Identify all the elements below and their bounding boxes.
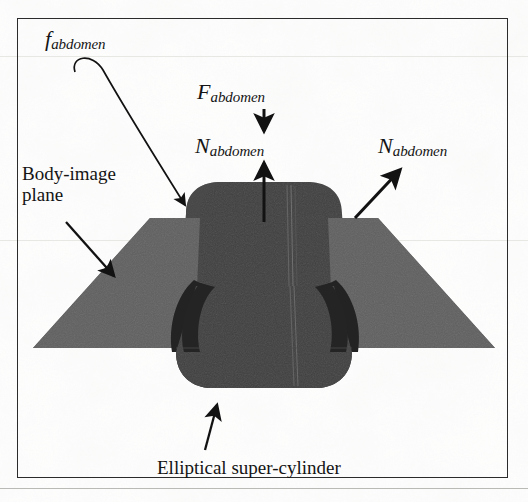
force-symbol: F — [197, 79, 211, 104]
normal-right-subscript: abdomen — [393, 143, 447, 159]
label-body-image-plane: Body-image plane — [22, 163, 116, 206]
label-force-abdomen: Fabdomen — [197, 80, 265, 105]
label-elliptical-super-cylinder: Elliptical super-cylinder — [157, 457, 341, 478]
label-normal-abdomen-top: Nabdomen — [195, 134, 264, 159]
friction-subscript: abdomen — [51, 36, 105, 52]
normal-right-symbol: N — [378, 133, 393, 158]
force-subscript: abdomen — [211, 89, 265, 105]
scanned-page: fabdomen Fabdomen Nabdomen Nabdomen Body… — [0, 0, 528, 502]
label-friction-abdomen: fabdomen — [45, 27, 106, 52]
label-normal-abdomen-right: Nabdomen — [378, 134, 447, 159]
body-image-plane-line1: Body-image — [22, 163, 116, 184]
normal-top-subscript: abdomen — [210, 143, 264, 159]
body-image-plane-line2: plane — [22, 184, 116, 205]
normal-top-symbol: N — [195, 133, 210, 158]
